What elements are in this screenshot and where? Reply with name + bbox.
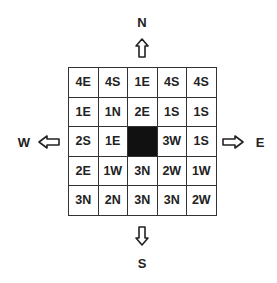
blank-target-cell <box>128 127 158 157</box>
grid-cell: 1N <box>98 97 128 127</box>
grid-cell: 2S <box>69 127 99 157</box>
grid-cell: 4E <box>69 68 99 98</box>
grid-cell: 3N <box>157 186 187 216</box>
grid-cell: 2W <box>157 156 187 186</box>
west-arrow-icon <box>38 135 60 149</box>
grid-cell: 2N <box>98 186 128 216</box>
grid-cell: 4S <box>157 68 187 98</box>
grid-cell: 1E <box>128 68 158 98</box>
grid-cell: 1W <box>187 156 217 186</box>
grid-cell: 1S <box>157 97 187 127</box>
north-arrow-icon <box>135 38 149 58</box>
grid-cell: 4S <box>187 68 217 98</box>
grid-cell: 2W <box>187 186 217 216</box>
south-label: S <box>134 257 150 270</box>
grid-cell: 3W <box>157 127 187 157</box>
grid-row: 3N 2N 3N 3N 2W <box>69 186 217 216</box>
grid-cell: 1E <box>98 127 128 157</box>
grid-cell: 2E <box>128 97 158 127</box>
north-label: N <box>134 16 150 29</box>
grid-row: 4E 4S 1E 4S 4S <box>69 68 217 98</box>
grid-row: 2E 1W 3N 2W 1W <box>69 156 217 186</box>
grid-row: 2S 1E 3W 1S <box>69 127 217 157</box>
grid-cell: 3N <box>69 186 99 216</box>
grid-cell: 1S <box>187 97 217 127</box>
grid-cell: 1E <box>69 97 99 127</box>
east-arrow-icon <box>222 135 244 149</box>
grid-cell: 3N <box>128 186 158 216</box>
direction-grid: 4E 4S 1E 4S 4S 1E 1N 2E 1S 1S 2S 1E 3W 1… <box>68 67 217 216</box>
grid-cell: 3N <box>128 156 158 186</box>
grid-cell: 1S <box>187 127 217 157</box>
east-label: E <box>252 136 268 149</box>
grid-cell: 2E <box>69 156 99 186</box>
south-arrow-icon <box>135 226 149 246</box>
grid-cell: 4S <box>98 68 128 98</box>
grid-row: 1E 1N 2E 1S 1S <box>69 97 217 127</box>
grid-cell: 1W <box>98 156 128 186</box>
west-label: W <box>16 136 32 149</box>
